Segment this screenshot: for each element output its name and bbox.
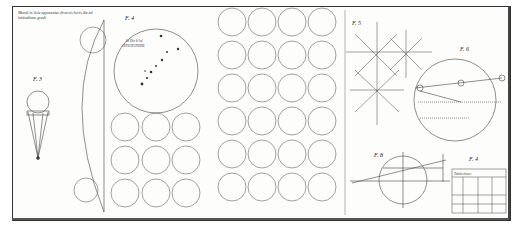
figure-5-diagram: [346, 22, 432, 125]
figure-3-diagram: [27, 91, 49, 160]
disc-grid-center: [218, 8, 336, 201]
svg-text:In Die 8 Jul: In Die 8 Jul: [125, 39, 143, 43]
plate-drawings: In Die 8 Jul ANTICIPATIONE: [0, 0, 514, 236]
figure-8-diagram: [350, 152, 450, 208]
svg-text:Tabula observ.: Tabula observ.: [454, 172, 472, 176]
svg-text:ANTICIPATIONE: ANTICIPATIONE: [121, 44, 145, 48]
figure-6-diagram: [414, 59, 505, 141]
disc-grid-left: [111, 113, 200, 207]
